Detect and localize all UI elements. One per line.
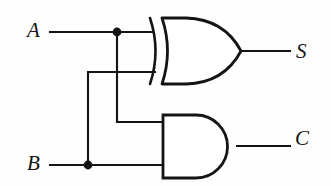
and-gate-body — [163, 115, 228, 178]
output-label-s: S — [296, 41, 307, 62]
xor-gate-back-arc — [150, 18, 156, 84]
junction-dot-group — [84, 28, 122, 170]
wire-b-branch-to-xor — [88, 72, 155, 165]
circuit-diagram-canvas: A B S C — [0, 0, 331, 186]
input-label-a: A — [27, 20, 40, 41]
junction-dot-b — [84, 161, 93, 170]
xor-gate-body — [162, 18, 241, 84]
logic-circuit-svg — [0, 0, 331, 186]
output-label-c: C — [295, 128, 309, 149]
and-gate — [163, 115, 228, 178]
xor-gate — [150, 18, 241, 84]
input-label-b: B — [27, 153, 40, 174]
junction-dot-a — [113, 28, 122, 37]
